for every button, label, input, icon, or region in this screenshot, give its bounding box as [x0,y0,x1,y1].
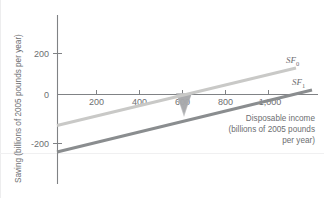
curve-label-sf0-sub: 0 [296,60,299,67]
chart-figure: 200 0 -200 200 400 600 800 1,000 SF0 SF1… [0,0,324,198]
x-tick-label-800: 800 [218,97,233,107]
y-tick-label-0: 0 [44,90,49,100]
x-tick-label-200: 200 [89,97,104,107]
curve-label-sf0-text: SF [286,55,297,65]
curve-label-sf1-text: SF [292,77,303,87]
x-axis-title-line1: Disposable income [246,114,316,123]
y-axis-title: Saving (billions of 2005 pounds per year… [14,34,23,183]
x-axis-title-line3: per year) [282,136,315,145]
saving-function-chart: 200 0 -200 200 400 600 800 1,000 SF0 SF1… [0,0,324,198]
y-tick-label-neg200: -200 [31,139,49,149]
y-tick-label-200: 200 [34,49,49,59]
curve-label-sf1-sub: 1 [302,82,305,89]
x-axis-title-line2: (billions of 2005 pounds [229,125,316,134]
